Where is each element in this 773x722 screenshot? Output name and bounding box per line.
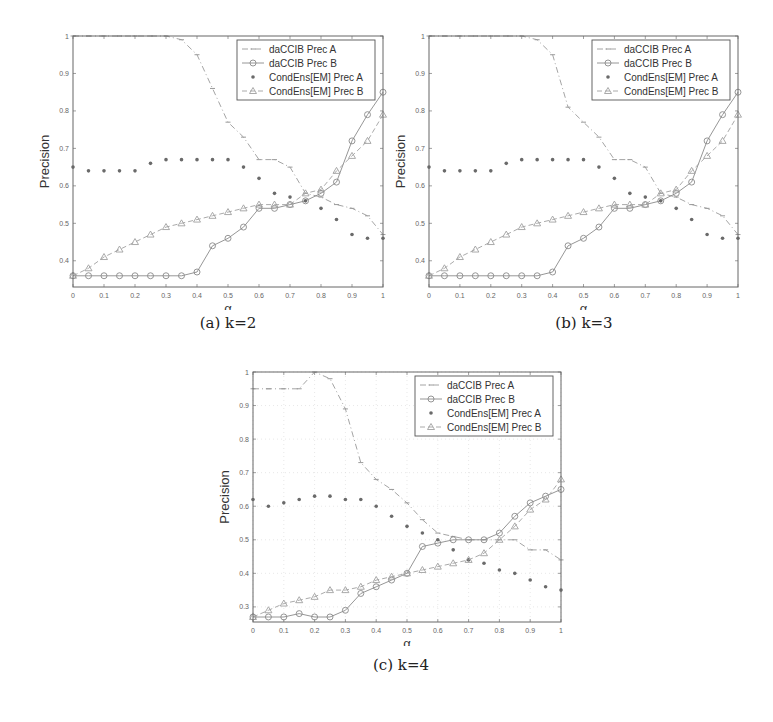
chart-panel-b: 00.10.20.30.40.50.60.70.80.910.40.50.60.… bbox=[390, 0, 773, 340]
data-point bbox=[551, 158, 555, 162]
data-point bbox=[597, 165, 601, 169]
data-point bbox=[297, 498, 301, 502]
legend: daCCIB Prec AdaCCIB Prec BCondEns[EM] Pr… bbox=[415, 376, 553, 436]
x-tick-label: 0.7 bbox=[464, 627, 474, 634]
data-point bbox=[242, 165, 246, 169]
data-point bbox=[520, 158, 524, 162]
data-point bbox=[328, 494, 332, 498]
x-tick-label: 0.7 bbox=[640, 292, 650, 299]
x-tick-label: 0.2 bbox=[130, 292, 140, 299]
legend-label: CondEns[EM] Prec B bbox=[269, 86, 364, 97]
x-tick-label: 0 bbox=[251, 627, 255, 634]
x-tick-label: 0.2 bbox=[310, 627, 320, 634]
x-tick-label: 0.6 bbox=[433, 627, 443, 634]
data-point bbox=[195, 158, 199, 162]
chart-panel-c: 00.10.20.30.40.50.60.70.80.910.30.40.50.… bbox=[180, 336, 580, 722]
data-point bbox=[721, 236, 725, 240]
chart-a: 00.10.20.30.40.50.60.70.80.910.40.50.60.… bbox=[0, 0, 390, 310]
y-tick-label: 0.5 bbox=[59, 220, 69, 227]
legend-label: CondEns[EM] Prec A bbox=[269, 72, 363, 83]
x-tick-label: 0.8 bbox=[671, 292, 681, 299]
data-point bbox=[273, 192, 277, 196]
x-axis-label: α bbox=[403, 636, 411, 646]
legend-label: CondEns[EM] Prec B bbox=[624, 86, 719, 97]
x-tick-label: 0.4 bbox=[371, 627, 381, 634]
data-point bbox=[267, 504, 271, 508]
y-axis-label: Precision bbox=[217, 470, 232, 523]
y-tick-label: 0.4 bbox=[59, 257, 69, 264]
legend-label: daCCIB Prec B bbox=[447, 394, 515, 405]
data-point bbox=[458, 169, 462, 173]
data-point bbox=[436, 538, 440, 542]
data-point bbox=[366, 236, 370, 240]
x-tick-label: 0.5 bbox=[223, 292, 233, 299]
x-tick-label: 0.4 bbox=[192, 292, 202, 299]
x-tick-label: 0.9 bbox=[702, 292, 712, 299]
legend: daCCIB Prec AdaCCIB Prec BCondEns[EM] Pr… bbox=[237, 40, 375, 100]
y-tick-label: 0.9 bbox=[415, 70, 425, 77]
data-point bbox=[504, 162, 508, 166]
y-tick-label: 0.5 bbox=[239, 536, 249, 543]
y-tick-label: 1 bbox=[421, 33, 425, 40]
legend-label: daCCIB Prec B bbox=[624, 58, 692, 69]
data-point bbox=[482, 561, 486, 565]
y-tick-label: 0.6 bbox=[59, 182, 69, 189]
data-point bbox=[582, 158, 586, 162]
data-point bbox=[180, 158, 184, 162]
y-tick-label: 0.4 bbox=[415, 257, 425, 264]
legend-label: daCCIB Prec A bbox=[269, 44, 337, 55]
y-tick-label: 0.9 bbox=[59, 70, 69, 77]
data-point bbox=[304, 199, 308, 203]
y-tick-label: 0.7 bbox=[415, 145, 425, 152]
x-tick-label: 0.8 bbox=[495, 627, 505, 634]
caption-b: (b) k=3 bbox=[484, 314, 684, 332]
x-tick-label: 0 bbox=[427, 292, 431, 299]
data-point bbox=[498, 568, 502, 572]
data-point bbox=[288, 195, 292, 199]
caption-c: (c) k=4 bbox=[301, 656, 501, 674]
y-tick-label: 0.3 bbox=[239, 603, 249, 610]
x-tick-label: 0.3 bbox=[161, 292, 171, 299]
data-point bbox=[513, 572, 517, 576]
data-point bbox=[705, 233, 709, 237]
chart-panel-a: 00.10.20.30.40.50.60.70.80.910.40.50.60.… bbox=[0, 0, 390, 340]
data-point bbox=[211, 158, 215, 162]
data-point bbox=[164, 158, 168, 162]
data-point bbox=[628, 192, 632, 196]
y-tick-label: 0.8 bbox=[239, 436, 249, 443]
data-point bbox=[474, 169, 478, 173]
y-tick-label: 1 bbox=[65, 33, 69, 40]
data-point bbox=[257, 177, 261, 181]
data-point bbox=[613, 177, 617, 181]
data-point bbox=[359, 498, 363, 502]
x-tick-label: 0.9 bbox=[525, 627, 535, 634]
y-tick-label: 0.9 bbox=[239, 402, 249, 409]
chart-b: 00.10.20.30.40.50.60.70.80.910.40.50.60.… bbox=[390, 0, 773, 310]
y-tick-label: 0.4 bbox=[239, 570, 249, 577]
data-point bbox=[659, 199, 663, 203]
legend-label: CondEns[EM] Prec B bbox=[447, 422, 542, 433]
data-point bbox=[149, 162, 153, 166]
x-tick-label: 0.3 bbox=[341, 627, 351, 634]
legend-label: daCCIB Prec A bbox=[447, 380, 515, 391]
x-axis-label: α bbox=[224, 301, 232, 310]
y-tick-label: 0.8 bbox=[415, 107, 425, 114]
data-point bbox=[405, 525, 409, 529]
data-point bbox=[566, 158, 570, 162]
x-tick-label: 0.1 bbox=[455, 292, 465, 299]
data-point bbox=[674, 207, 678, 211]
y-tick-label: 0.6 bbox=[239, 503, 249, 510]
data-point bbox=[544, 585, 548, 589]
y-tick-label: 0.6 bbox=[415, 182, 425, 189]
x-tick-label: 0.7 bbox=[285, 292, 295, 299]
y-tick-label: 0.8 bbox=[59, 107, 69, 114]
y-tick-label: 0.5 bbox=[415, 220, 425, 227]
x-tick-label: 1 bbox=[559, 627, 563, 634]
data-point bbox=[390, 514, 394, 518]
caption-a: (a) k=2 bbox=[128, 314, 328, 332]
legend-marker bbox=[251, 75, 255, 79]
x-axis-label: α bbox=[580, 301, 588, 310]
data-point bbox=[535, 158, 539, 162]
x-tick-label: 0.1 bbox=[279, 627, 289, 634]
data-point bbox=[335, 218, 339, 222]
